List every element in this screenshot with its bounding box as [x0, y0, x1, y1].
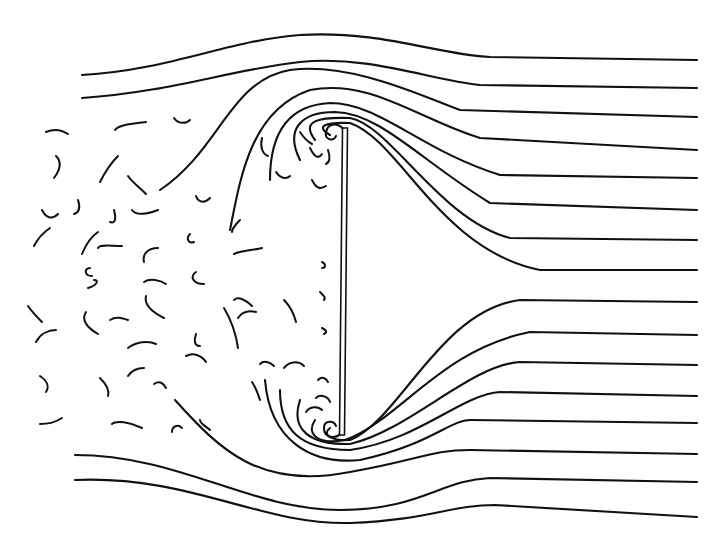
flow-diagram-svg [0, 0, 721, 548]
background [0, 0, 721, 548]
flow-diagram [0, 0, 721, 548]
